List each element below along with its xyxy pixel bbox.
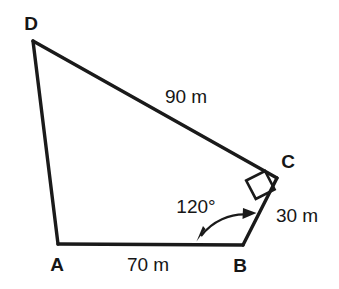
vertex-label-B: B xyxy=(233,255,247,276)
length-label-dc: 90 m xyxy=(165,86,207,107)
length-label-ba: 70 m xyxy=(127,254,169,275)
vertex-label-A: A xyxy=(50,254,64,275)
angle-arrow-head-upper-icon xyxy=(243,208,257,219)
edge-BA xyxy=(58,244,243,245)
angle-label-120: 120° xyxy=(176,196,215,217)
geometry-diagram: D C B A 90 m 30 m 70 m 120° xyxy=(0,0,339,289)
vertex-label-C: C xyxy=(281,151,295,172)
edge-DC xyxy=(33,41,277,178)
vertex-label-D: D xyxy=(24,13,38,34)
diagram-canvas: D C B A 90 m 30 m 70 m 120° xyxy=(0,0,339,289)
angle-arc-120 xyxy=(201,214,249,236)
length-label-cb: 30 m xyxy=(276,205,318,226)
edge-AD xyxy=(33,41,58,244)
